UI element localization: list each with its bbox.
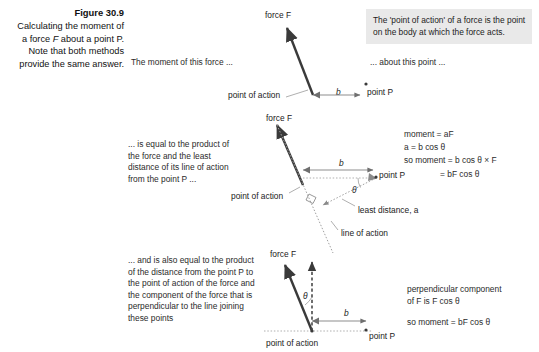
middle-force-label: force F (266, 113, 292, 123)
middle-point-of-action-leader (289, 187, 300, 193)
line-of-action-leader (331, 221, 338, 230)
least-distance-arrow (323, 178, 376, 205)
top-point-p-dot (364, 82, 367, 85)
least-distance-arrow-head-p (368, 173, 377, 181)
bottom-note-line-3: the point of action of the force and (128, 278, 255, 288)
bottom-right-text: perpendicular component of F is F cos θ … (407, 283, 502, 328)
middle-b-label: b (339, 158, 344, 168)
bottom-note-line-1: ... and is also equal to the product (128, 255, 254, 265)
equation-bFcos: = bF cos θ (404, 168, 497, 181)
equation-moment-aF: moment = aF (404, 128, 497, 141)
caption-line-2-post: about a point P. (58, 34, 124, 44)
top-point-p-label: point P (367, 87, 393, 97)
bottom-b-arrow-left-head (312, 317, 319, 324)
figure-caption: Figure 30.9 Calculating the moment of a … (0, 7, 124, 70)
top-note-left: The moment of this force ... (131, 57, 233, 69)
bottom-note-line-6: these points (128, 313, 173, 323)
top-note-right: ... about this point ... (370, 57, 445, 69)
point-of-action-callout: The 'point of action' of a force is the … (366, 9, 532, 44)
middle-force-arrow (277, 125, 303, 185)
top-diagram (286, 28, 368, 99)
callout-line-1: The 'point of action' of a force is the … (373, 15, 525, 25)
middle-note-line-1: ... is equal to the product of (128, 139, 229, 149)
bottom-note-line-4: the component of the force that is (128, 290, 252, 300)
equation-so-moment: so moment = b cos θ × F (404, 154, 497, 167)
caption-line-1: Calculating the moment of (17, 21, 124, 31)
bottom-point-of-action-dot (310, 329, 313, 332)
middle-note-line-4: from the point P ... (128, 174, 196, 184)
caption-line-2-pre: a force (22, 34, 53, 44)
middle-theta-label: θ (352, 185, 357, 195)
least-distance-label: least distance, a (358, 205, 419, 215)
bottom-note-line-2: of the distance from the point P to (128, 267, 253, 277)
bottom-moment-equation: so moment = bF cos θ (407, 316, 502, 328)
bottom-theta-label: θ (303, 291, 308, 301)
middle-point-of-action-label: point of action (231, 191, 283, 201)
line-of-action-dotted (277, 125, 333, 253)
top-force-label: force F (265, 10, 291, 20)
least-distance-leader (342, 199, 355, 206)
top-b-arrow-left-head (313, 91, 320, 98)
figure-number: Figure 30.9 (0, 7, 124, 20)
middle-equations: moment = aF a = b cos θ so moment = b co… (404, 128, 497, 181)
callout-line-2: on the body at which the force acts. (373, 27, 505, 37)
caption-line-3: Note that both methods (28, 46, 124, 56)
bottom-note-line-5: perpendicular to the line joining (128, 301, 244, 311)
right-angle-marker (306, 194, 316, 204)
bottom-point-of-action-label: point of action (266, 338, 318, 348)
top-point-of-action-leader (286, 90, 308, 97)
middle-note-line-2: the force and the least (128, 151, 211, 161)
middle-point-p-label: point P (379, 170, 405, 180)
bottom-force-label: force F (270, 249, 296, 259)
line-of-action-label: line of action (341, 228, 388, 238)
middle-point-p-dot (374, 175, 377, 178)
top-b-label: b (336, 87, 341, 97)
middle-theta-arc (358, 178, 361, 188)
bottom-point-p-dot (364, 328, 367, 331)
top-point-of-action-label: point of action (228, 90, 280, 100)
middle-note: ... is equal to the product of the force… (128, 139, 246, 185)
perpendicular-component-line-2: of F is F cos θ (407, 295, 502, 307)
middle-b-arrow-left-head (303, 166, 310, 173)
bottom-note: ... and is also equal to the product of … (128, 255, 268, 325)
bottom-diagram (264, 262, 372, 333)
middle-note-line-3: distance of its line of action (128, 162, 229, 172)
top-force-arrow (287, 28, 313, 95)
caption-line-4: provide the same answer. (19, 59, 124, 69)
perpendicular-component-line-1: perpendicular component (407, 283, 502, 295)
bottom-b-label: b (344, 308, 349, 318)
bottom-point-p-label: point P (369, 331, 395, 341)
equation-a-equals-bcos: a = b cos θ (404, 141, 497, 154)
